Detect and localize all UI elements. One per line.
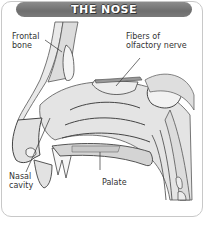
label-olfactory-line1: Fibers of bbox=[126, 32, 187, 41]
label-nasal-cavity-line1: Nasal bbox=[9, 172, 33, 181]
label-palate: Palate bbox=[102, 178, 127, 187]
label-olfactory-nerve: Fibers of olfactory nerve bbox=[126, 32, 187, 50]
label-nasal-cavity: Nasal cavity bbox=[9, 172, 33, 190]
label-nasal-cavity-line2: cavity bbox=[9, 181, 33, 190]
hard-palate bbox=[72, 146, 120, 152]
upper-lip bbox=[34, 160, 52, 188]
label-olfactory-line2: olfactory nerve bbox=[126, 41, 187, 50]
label-frontal-bone-line1: Frontal bbox=[12, 32, 39, 41]
label-frontal-bone-line2: bone bbox=[12, 41, 39, 50]
label-frontal-bone: Frontal bone bbox=[12, 32, 39, 50]
